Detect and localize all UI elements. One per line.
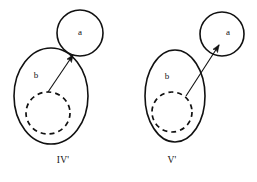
arrow-b-to-a-right: [186, 45, 219, 96]
figure-v-prime: a b V': [145, 12, 244, 165]
figure-caption-v-prime: V': [167, 155, 176, 165]
label-a-right: a: [226, 27, 230, 37]
label-b-right: b: [165, 71, 170, 81]
figure-caption-iv-prime: IV': [57, 155, 70, 165]
set-diagram-svg: a b IV' a b V': [0, 0, 257, 182]
outer-ellipse-b-right: [145, 50, 205, 142]
figure-iv-prime: a b IV': [14, 10, 103, 165]
label-b-left: b: [34, 70, 39, 80]
dashed-inner-circle-left: [26, 92, 70, 134]
small-circle-a-right: [200, 12, 244, 56]
arrow-b-to-a-left: [48, 55, 73, 92]
dashed-inner-circle-right: [152, 92, 192, 132]
label-a-left: a: [78, 27, 82, 37]
diagram-canvas: a b IV' a b V': [0, 0, 257, 182]
outer-ellipse-b-left: [14, 48, 88, 144]
